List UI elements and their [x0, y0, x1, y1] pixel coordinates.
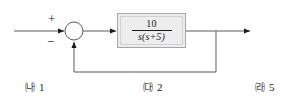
- choice-marker-da: ㈐: [143, 83, 153, 93]
- answer-choice-3[interactable]: ㈑ 5: [255, 82, 275, 93]
- choice-marker-na: ㈏: [25, 83, 35, 93]
- transfer-function-expression: 10 s(s+5): [132, 19, 172, 42]
- block-diagram-figure: 10 s(s+5) + − ㈏ 1 ㈐ 2 ㈑ 5: [0, 0, 292, 104]
- choice-marker-ra: ㈑: [255, 83, 265, 93]
- answer-choice-2[interactable]: ㈐ 2: [143, 82, 163, 93]
- choice-value-3: 5: [269, 82, 275, 93]
- answer-choice-1[interactable]: ㈏ 1: [25, 82, 45, 93]
- transfer-function-numerator: 10: [142, 19, 160, 30]
- summing-junction-circle: [65, 22, 83, 40]
- transfer-function-denominator: s(s+5): [134, 31, 169, 42]
- summing-junction-minus-sign: −: [47, 35, 54, 48]
- choice-value-2: 2: [157, 82, 163, 93]
- transfer-function-block: 10 s(s+5): [117, 13, 186, 48]
- choice-value-1: 1: [39, 82, 45, 93]
- summing-junction-plus-sign: +: [48, 12, 55, 25]
